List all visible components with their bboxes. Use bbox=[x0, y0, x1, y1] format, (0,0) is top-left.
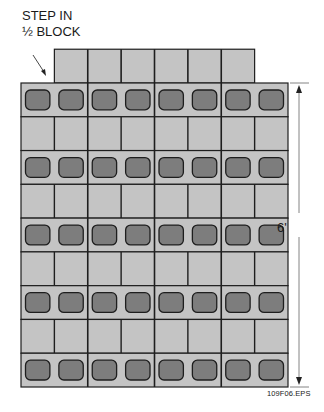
block-core bbox=[92, 293, 116, 313]
block-core bbox=[192, 90, 216, 110]
block-wall bbox=[21, 49, 288, 387]
step-label-line-1: STEP IN bbox=[22, 8, 81, 24]
block-core bbox=[59, 158, 83, 178]
block-core bbox=[92, 225, 116, 245]
block-core bbox=[126, 360, 150, 380]
block-wall-diagram bbox=[0, 0, 324, 412]
block-core bbox=[26, 293, 50, 313]
arrowhead-down-icon bbox=[296, 377, 302, 385]
block-core bbox=[192, 293, 216, 313]
block-core bbox=[226, 360, 250, 380]
block-core bbox=[59, 360, 83, 380]
block-core bbox=[59, 90, 83, 110]
block-core bbox=[259, 293, 283, 313]
block-core bbox=[259, 158, 283, 178]
block-core bbox=[226, 293, 250, 313]
block-core bbox=[159, 158, 183, 178]
block-core bbox=[59, 225, 83, 245]
step-label-line-2: ½ BLOCK bbox=[22, 24, 81, 40]
block-core bbox=[259, 360, 283, 380]
block-core bbox=[159, 225, 183, 245]
block-core bbox=[259, 90, 283, 110]
height-dimension bbox=[290, 83, 309, 387]
block-core bbox=[126, 225, 150, 245]
block-core bbox=[159, 293, 183, 313]
block-core bbox=[92, 360, 116, 380]
block-core bbox=[26, 225, 50, 245]
callout-arrowhead-icon bbox=[41, 69, 46, 76]
block-core bbox=[26, 90, 50, 110]
block-core bbox=[26, 158, 50, 178]
block-core bbox=[59, 293, 83, 313]
block-core bbox=[192, 360, 216, 380]
block-core bbox=[159, 360, 183, 380]
height-dimension-label: 6' bbox=[277, 220, 287, 235]
block-core bbox=[226, 90, 250, 110]
arrowhead-up-icon bbox=[296, 85, 302, 93]
step-callout-arrow bbox=[33, 55, 46, 76]
block-core bbox=[126, 90, 150, 110]
block-core bbox=[159, 90, 183, 110]
block-core bbox=[226, 158, 250, 178]
block-core bbox=[226, 225, 250, 245]
callout-arrow-line bbox=[33, 55, 44, 72]
block-core bbox=[192, 158, 216, 178]
block-core bbox=[126, 293, 150, 313]
figure-id: 109F06.EPS bbox=[267, 389, 311, 398]
block-core bbox=[92, 90, 116, 110]
block-core bbox=[92, 158, 116, 178]
block-core bbox=[192, 225, 216, 245]
step-in-half-block-label: STEP IN ½ BLOCK bbox=[22, 8, 81, 40]
block-core bbox=[126, 158, 150, 178]
block-core bbox=[26, 360, 50, 380]
